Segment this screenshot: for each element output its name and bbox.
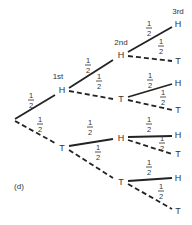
prob-T-TH: 12: [87, 119, 93, 136]
denominator: 2: [161, 99, 165, 106]
branch-root-H: [15, 95, 55, 119]
prob-HH-HHH: 12: [146, 20, 152, 37]
node-TH: H: [118, 134, 125, 143]
node-TTH: H: [175, 174, 182, 183]
level-label-2nd: 2nd: [114, 39, 127, 47]
denominator: 2: [147, 126, 151, 133]
prob-TH-THH: 12: [146, 116, 152, 133]
prob-TT-TTT: 12: [158, 183, 164, 200]
prob-H-HT: 12: [96, 73, 102, 90]
node-HT: T: [118, 95, 124, 104]
branch-TH-THT: [128, 140, 172, 154]
prob-root-H: 12: [28, 92, 34, 109]
prob-HH-HHT: 12: [158, 38, 164, 55]
node-THT: T: [175, 150, 181, 159]
numerator: 1: [147, 116, 151, 123]
numerator: 1: [29, 92, 33, 99]
level-label-1st: 1st: [53, 73, 64, 81]
denominator: 2: [159, 48, 163, 55]
node-HH: H: [118, 51, 125, 60]
prob-root-T: 12: [37, 116, 43, 133]
denominator: 2: [147, 169, 151, 176]
branch-TT-TTT: [128, 184, 172, 209]
node-HTH: H: [175, 79, 182, 88]
branch-TT-TTH: [128, 178, 172, 181]
numerator: 1: [97, 73, 101, 80]
numerator: 1: [159, 183, 163, 190]
numerator: 1: [148, 72, 152, 79]
denominator: 2: [147, 30, 151, 37]
numerator: 1: [147, 20, 151, 27]
node-H: H: [59, 86, 66, 95]
numerator: 1: [160, 135, 164, 142]
prob-TT-TTH: 12: [146, 159, 152, 176]
branch-H-HT: [69, 91, 113, 99]
node-THH: H: [175, 131, 182, 140]
branch-TH-THH: [128, 136, 172, 137]
numerator: 1: [147, 159, 151, 166]
denominator: 2: [96, 154, 100, 161]
branch-root-T: [15, 121, 55, 143]
numerator: 1: [86, 57, 90, 64]
numerator: 1: [96, 144, 100, 151]
branch-H-HH: [69, 60, 113, 88]
denominator: 2: [86, 67, 90, 74]
node-HHH: H: [175, 20, 182, 29]
node-TT: T: [118, 178, 124, 187]
numerator: 1: [88, 119, 92, 126]
denominator: 2: [160, 145, 164, 152]
denominator: 2: [38, 126, 42, 133]
branch-T-TH: [69, 139, 113, 146]
numerator: 1: [159, 38, 163, 45]
numerator: 1: [161, 89, 165, 96]
denominator: 2: [148, 82, 152, 89]
figure-label: (d): [14, 183, 24, 191]
branch-HH-HHT: [128, 56, 172, 61]
denominator: 2: [88, 129, 92, 136]
prob-T-TT: 12: [95, 144, 101, 161]
numerator: 1: [38, 116, 42, 123]
node-TTT: T: [175, 207, 181, 216]
node-HHT: T: [175, 57, 181, 66]
node-T: T: [59, 144, 65, 153]
denominator: 2: [97, 83, 101, 90]
prob-HT-HTT: 12: [160, 89, 166, 106]
denominator: 2: [29, 102, 33, 109]
level-label-3rd: 3rd: [172, 8, 184, 16]
branch-T-TT: [69, 150, 113, 178]
prob-TH-THT: 12: [159, 135, 165, 152]
prob-H-HH: 12: [85, 57, 91, 74]
prob-HT-HTH: 12: [147, 72, 153, 89]
node-HTT: T: [175, 106, 181, 115]
denominator: 2: [159, 193, 163, 200]
